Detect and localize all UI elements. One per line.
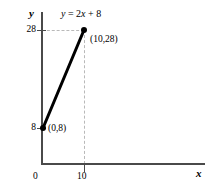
- data-point-10-28: [81, 27, 87, 33]
- data-point-label-0-8: (0,8): [48, 124, 66, 134]
- data-point-label-10-28: (10,28): [90, 35, 118, 45]
- data-point-0-8: [40, 125, 46, 131]
- equation-constant: 8: [96, 8, 101, 19]
- plot-area: [0, 0, 211, 193]
- line-graph-figure: 28 8 0 10 y x (10,28) (0,8) y = 2x + 8: [0, 0, 211, 193]
- line-segment: [43, 30, 84, 128]
- equation-annotation: y = 2x + 8: [61, 9, 101, 19]
